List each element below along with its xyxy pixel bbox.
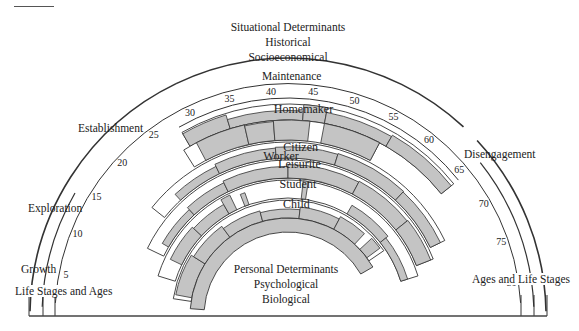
role-band-worker-fill — [273, 120, 310, 141]
personal-psychological: Psychological — [186, 277, 386, 292]
age-tick-30: 30 — [185, 107, 195, 118]
age-tick-50: 50 — [350, 95, 360, 106]
stage-maintenance: Maintenance — [262, 70, 321, 82]
role-label-citizen: Citizen — [283, 140, 318, 154]
situational-determinants: Situational Determinants Historical Soci… — [188, 20, 388, 65]
personal-determinants: Personal Determinants Psychological Biol… — [186, 262, 386, 307]
personal-title: Personal Determinants — [186, 262, 386, 277]
age-tick-20: 20 — [117, 157, 127, 168]
personal-biological: Biological — [186, 292, 386, 307]
age-tick-5: 5 — [63, 269, 68, 280]
role-label-leisurite: Leisurite — [278, 157, 321, 171]
age-tick-15: 15 — [92, 191, 102, 202]
situational-socioeconomical: Socioeconomical — [188, 50, 388, 65]
role-label-student: Student — [280, 177, 317, 191]
age-tick-25: 25 — [149, 129, 159, 140]
left-caption: Life Stages and Ages — [15, 285, 112, 297]
stage-growth: Growth — [21, 263, 56, 275]
situational-title: Situational Determinants — [188, 20, 388, 35]
outer-arc-establishment — [30, 84, 176, 312]
age-tick-10: 10 — [73, 228, 83, 239]
situational-historical: Historical — [188, 35, 388, 50]
stage-establishment: Establishment — [78, 122, 143, 134]
age-tick-35: 35 — [225, 93, 235, 104]
age-tick-70: 70 — [479, 198, 489, 209]
age-tick-40: 40 — [266, 86, 276, 97]
age-tick-45: 45 — [308, 86, 318, 97]
role-label-homemaker: Homemaker — [274, 102, 333, 116]
age-tick-60: 60 — [424, 134, 434, 145]
role-band-worker-fill — [245, 122, 275, 145]
right-caption: Ages and Life Stages — [472, 273, 570, 285]
age-tick-75: 75 — [496, 236, 506, 247]
age-tick-65: 65 — [454, 164, 464, 175]
stage-disengagement: Disengagement — [464, 148, 536, 160]
age-tick-55: 55 — [389, 111, 399, 122]
role-label-child: Child — [283, 197, 310, 211]
stage-exploration: Exploration — [28, 202, 82, 214]
